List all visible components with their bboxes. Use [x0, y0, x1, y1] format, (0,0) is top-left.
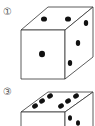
die-3-front-face: [21, 112, 65, 126]
die-1: [21, 7, 93, 79]
die-3: [21, 92, 93, 126]
dice-diagram: [0, 0, 95, 126]
